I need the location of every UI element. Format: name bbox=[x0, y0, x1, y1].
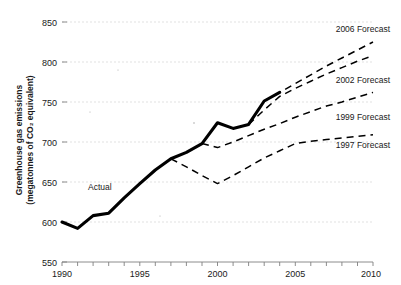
y-tick-label-550: 550 bbox=[42, 258, 57, 268]
series-label-2006-forecast: 2006 Forecast bbox=[336, 24, 391, 34]
series-label-1997-forecast: 1997 Forecast bbox=[336, 140, 391, 150]
forecast-2006-line bbox=[264, 42, 373, 101]
y-tick-label-650: 650 bbox=[42, 178, 57, 188]
series-label-actual: Actual bbox=[88, 182, 112, 192]
y-axis-title-line2: (megatonnes of CO₂ equivalent) bbox=[25, 75, 35, 205]
y-tick-label-800: 800 bbox=[42, 58, 57, 68]
actual-emissions-line bbox=[62, 92, 280, 228]
y-axis-title: Greenhouse gas emissions (megatonnes of … bbox=[14, 75, 35, 205]
y-tick-label-700: 700 bbox=[42, 138, 57, 148]
speck-3 bbox=[90, 112, 91, 113]
series-label-1999-forecast: 1999 Forecast bbox=[336, 112, 391, 122]
x-axis-minor-ticks bbox=[62, 262, 373, 266]
x-tick-label-2000: 2000 bbox=[207, 269, 227, 279]
x-tick-label-2005: 2005 bbox=[285, 269, 305, 279]
y-tick-label-850: 850 bbox=[42, 18, 57, 28]
scan-specks bbox=[90, 70, 195, 217]
x-axis-tick-labels: 1990 1995 2000 2005 2010 bbox=[52, 269, 381, 279]
x-tick-label-2010: 2010 bbox=[361, 269, 381, 279]
y-tick-label-600: 600 bbox=[42, 218, 57, 228]
x-tick-label-1995: 1995 bbox=[130, 269, 150, 279]
y-axis-tick-marks bbox=[62, 22, 67, 262]
y-axis-tick-labels: 850 800 750 700 650 600 550 bbox=[42, 18, 57, 268]
y-axis-title-line1: Greenhouse gas emissions bbox=[14, 84, 24, 195]
chart-canvas: 850 800 750 700 650 600 550 1990 1995 20… bbox=[0, 0, 401, 285]
y-tick-label-750: 750 bbox=[42, 98, 57, 108]
speck-1 bbox=[193, 122, 194, 123]
emissions-forecast-chart: 850 800 750 700 650 600 550 1990 1995 20… bbox=[0, 0, 401, 285]
x-tick-label-1990: 1990 bbox=[52, 269, 72, 279]
speck-4 bbox=[160, 216, 161, 217]
series-label-2002-forecast: 2002 Forecast bbox=[336, 75, 391, 85]
speck-2 bbox=[118, 70, 119, 71]
